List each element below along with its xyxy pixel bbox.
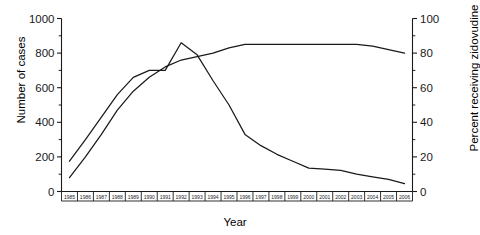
x-tick-label: 1997 [255, 194, 266, 200]
x-tick-label: 1985 [64, 194, 75, 200]
y-tick-label-left: 600 [35, 82, 54, 94]
x-tick-label: 1999 [287, 194, 298, 200]
y-tick-label-right: 100 [420, 13, 439, 25]
series-line-1 [69, 43, 404, 184]
y-tick-label-left: 400 [35, 116, 54, 128]
y-tick-label-right: 20 [420, 151, 433, 163]
x-tick-label: 1992 [176, 194, 187, 200]
x-tick-label: 1991 [160, 194, 171, 200]
x-tick-label: 2003 [351, 194, 362, 200]
y-tick-label-left: 0 [48, 186, 54, 198]
x-tick-label: 1986 [80, 194, 91, 200]
y-tick-label-right: 80 [420, 47, 433, 59]
x-tick-label: 2004 [367, 194, 378, 200]
x-tick-label: 1995 [223, 194, 234, 200]
x-tick-label: 2000 [303, 194, 314, 200]
y-tick-label-left: 200 [35, 151, 54, 163]
y-tick-label-left: 1000 [29, 13, 55, 25]
y-tick-label-left: 800 [35, 47, 54, 59]
y-tick-label-right: 0 [420, 186, 426, 198]
x-tick-label: 1987 [96, 194, 107, 200]
y-tick-label-right: 40 [420, 116, 433, 128]
x-tick-label: 1993 [192, 194, 203, 200]
x-tick-label: 2006 [399, 194, 410, 200]
x-tick-label: 1988 [112, 194, 123, 200]
x-tick-label: 2002 [335, 194, 346, 200]
x-tick-label: 1989 [128, 194, 139, 200]
x-tick-label: 1996 [239, 194, 250, 200]
y-axis-label-right: Percent receiving zidovudine [468, 0, 480, 163]
y-tick-label-right: 60 [420, 82, 433, 94]
x-tick-label: 1990 [144, 194, 155, 200]
x-axis-label: Year [180, 216, 290, 228]
x-tick-label: 1994 [208, 194, 219, 200]
x-tick-label: 2001 [319, 194, 330, 200]
x-tick-label: 1998 [271, 194, 282, 200]
y-axis-label-left: Number of cases [15, 15, 27, 145]
series-line-2 [69, 44, 404, 177]
x-tick-label: 2005 [383, 194, 394, 200]
